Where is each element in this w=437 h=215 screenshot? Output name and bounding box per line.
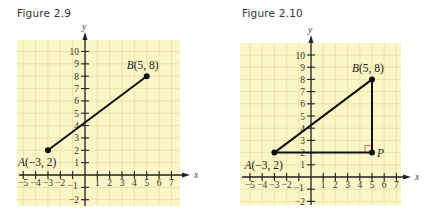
point-B-label: B(5, 8) bbox=[127, 59, 159, 72]
y-tick-label: 3 bbox=[300, 136, 305, 146]
x-axis-arrow-icon bbox=[182, 173, 190, 178]
point-P-label: P bbox=[376, 147, 384, 159]
x-tick-label: 3 bbox=[120, 178, 125, 188]
y-tick-label: 5 bbox=[300, 112, 305, 122]
y-tick-label: 3 bbox=[74, 133, 79, 143]
y-tick-label: −2 bbox=[295, 197, 305, 207]
y-tick-label: 5 bbox=[74, 109, 79, 119]
y-axis-arrow-icon bbox=[309, 35, 314, 43]
point-B-label: B(5, 8) bbox=[352, 62, 384, 75]
x-tick-label: −1 bbox=[68, 181, 78, 191]
y-tick-label: 1 bbox=[74, 158, 79, 168]
x-tick-label: 5 bbox=[370, 180, 375, 190]
x-tick-label: 6 bbox=[382, 180, 387, 190]
x-tick-label: −2 bbox=[55, 178, 65, 188]
x-tick-label: −3 bbox=[269, 180, 279, 190]
x-axis-label: x bbox=[193, 170, 199, 180]
y-tick-label: 10 bbox=[296, 51, 306, 61]
x-tick-label: 4 bbox=[357, 180, 362, 190]
y-tick-label: 8 bbox=[74, 72, 79, 82]
y-axis-label: y bbox=[81, 22, 87, 32]
point-A bbox=[271, 150, 277, 156]
x-tick-label: 7 bbox=[169, 178, 174, 188]
x-tick-label: 3 bbox=[345, 180, 350, 190]
x-tick-label: 5 bbox=[144, 178, 149, 188]
x-tick-label: 1 bbox=[95, 178, 100, 188]
x-tick-label: −5 bbox=[18, 178, 28, 188]
point-A-label: A(−3, 2) bbox=[243, 159, 283, 172]
figure-2-10-graph: xy−5−4−3−2−11234567−212345678910A(−3, 2)… bbox=[218, 0, 437, 215]
figure-2-9-graph: xy−5−4−3−2−11234567−212345678910A(−3, 2)… bbox=[0, 0, 218, 215]
x-tick-label: −2 bbox=[282, 180, 292, 190]
point-A-label: A(−3, 2) bbox=[17, 156, 57, 169]
y-tick-label: 2 bbox=[74, 146, 79, 156]
y-tick-label: 9 bbox=[74, 59, 79, 69]
y-tick-label: 8 bbox=[300, 75, 305, 85]
x-tick-label: −4 bbox=[31, 178, 41, 188]
x-tick-label: −1 bbox=[294, 183, 304, 193]
x-axis-label: x bbox=[414, 172, 420, 182]
point-B bbox=[369, 76, 375, 82]
x-tick-label: −4 bbox=[257, 180, 267, 190]
y-axis-label: y bbox=[307, 25, 313, 35]
y-tick-label: 9 bbox=[300, 63, 305, 73]
y-tick-label: 10 bbox=[70, 47, 80, 57]
point-B bbox=[144, 73, 150, 79]
x-tick-label: −5 bbox=[245, 180, 255, 190]
point-P bbox=[369, 150, 375, 156]
x-tick-label: 2 bbox=[333, 180, 338, 190]
y-axis-arrow-icon bbox=[83, 32, 88, 40]
y-tick-label: 1 bbox=[300, 160, 305, 170]
y-tick-label: 6 bbox=[300, 99, 305, 109]
x-tick-label: 6 bbox=[157, 178, 162, 188]
y-tick-label: −2 bbox=[69, 195, 79, 205]
x-tick-label: −3 bbox=[43, 178, 53, 188]
y-tick-label: 7 bbox=[300, 87, 305, 97]
y-tick-label: 7 bbox=[74, 84, 79, 94]
y-tick-label: 6 bbox=[74, 96, 79, 106]
x-tick-label: 7 bbox=[394, 180, 399, 190]
x-tick-label: 1 bbox=[321, 180, 326, 190]
x-tick-label: 2 bbox=[107, 178, 112, 188]
x-axis-arrow-icon bbox=[403, 175, 411, 180]
x-tick-label: 4 bbox=[132, 178, 137, 188]
point-A bbox=[45, 147, 51, 153]
